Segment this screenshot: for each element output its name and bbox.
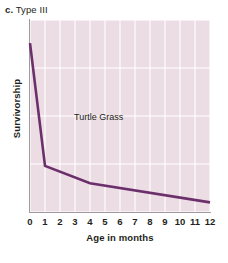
x-tick-label: 4 — [87, 216, 92, 228]
page-title: Type III — [16, 4, 48, 15]
x-tick-label: 6 — [117, 216, 122, 228]
x-tick-label: 0 — [27, 216, 32, 228]
x-tick-label: 12 — [205, 216, 216, 228]
panel-letter: c. — [5, 4, 13, 15]
x-tick-label: 10 — [175, 216, 186, 228]
x-tick-label: 1 — [42, 216, 47, 228]
x-axis-title: Age in months — [30, 232, 210, 243]
x-tick-label: 3 — [72, 216, 77, 228]
x-tick-label: 2 — [57, 216, 62, 228]
x-tick-labels: 0123456789101112 — [30, 216, 210, 230]
x-tick-label: 11 — [190, 216, 200, 228]
x-tick-label: 7 — [132, 216, 137, 228]
x-axis-line — [29, 212, 211, 213]
x-tick-label: 8 — [147, 216, 152, 228]
x-tick-label: 9 — [162, 216, 167, 228]
x-tick-label: 5 — [102, 216, 107, 228]
panel-title: c. Type III — [5, 4, 48, 16]
y-axis-title: Survivorship — [11, 49, 22, 169]
figure-panel-type-iii: c. Type III Turtle Grass 012345678910111… — [0, 0, 228, 263]
series-inline-label: Turtle Grass — [74, 112, 123, 122]
